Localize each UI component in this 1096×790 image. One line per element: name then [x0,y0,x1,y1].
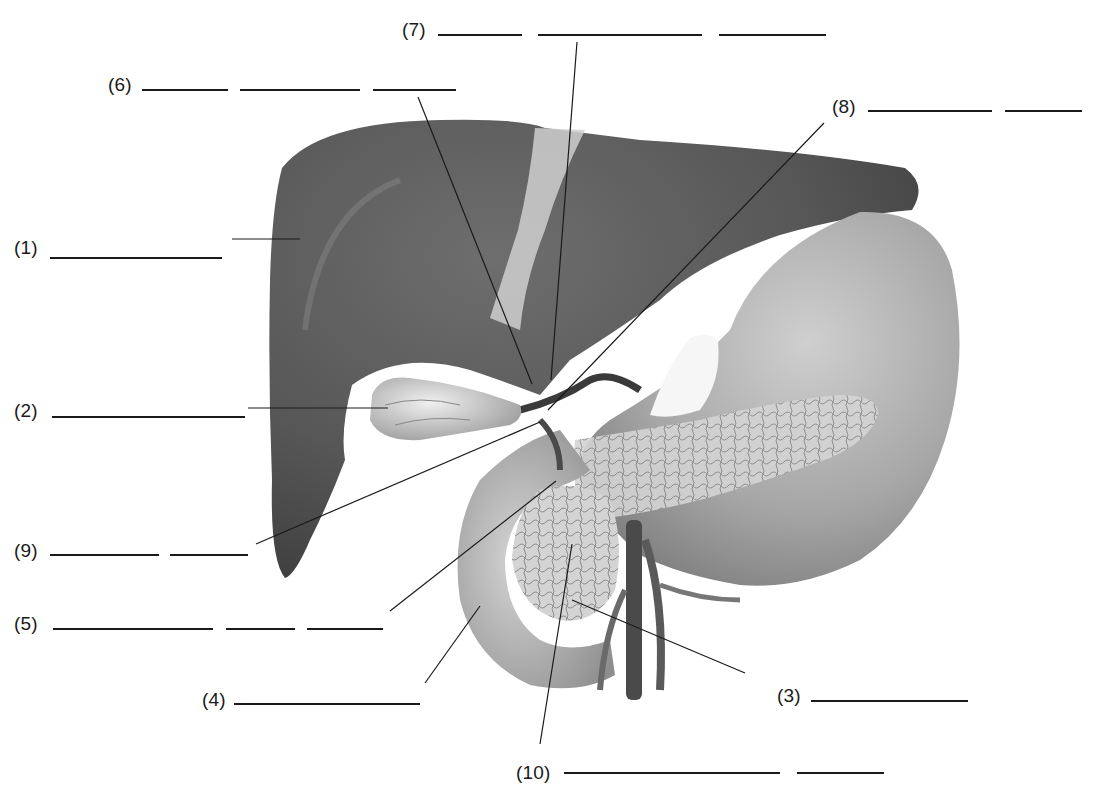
answer-blank-4-1[interactable] [234,703,420,705]
anatomy-illustration [0,0,1096,790]
label-number-8: (8) [832,97,856,116]
answer-blank-8-1[interactable] [868,110,992,112]
label-number-2: (2) [14,401,38,420]
answer-blank-3-1[interactable] [811,700,968,702]
label-number-9: (9) [14,541,38,560]
gallbladder [370,378,521,441]
answer-blank-6-3[interactable] [373,89,456,91]
mesenteric-vessels [626,520,642,700]
label-number-4: (4) [202,690,226,709]
label-number-1: (1) [14,238,38,257]
answer-blank-9-2[interactable] [170,554,248,556]
leader-line-4 [425,606,480,683]
answer-blank-2-1[interactable] [52,416,245,418]
answer-blank-6-1[interactable] [142,89,228,91]
label-number-10: (10) [516,763,551,782]
answer-blank-9-1[interactable] [50,554,159,556]
pancreas-head [512,486,619,621]
label-number-7: (7) [402,20,426,39]
answer-blank-1-1[interactable] [50,257,222,259]
answer-blank-5-3[interactable] [307,628,383,630]
answer-blank-7-3[interactable] [719,34,826,36]
label-number-5: (5) [14,614,38,633]
answer-blank-8-2[interactable] [1005,110,1082,112]
label-number-6: (6) [108,75,132,94]
answer-blank-10-1[interactable] [564,772,780,774]
answer-blank-5-2[interactable] [226,628,295,630]
answer-blank-7-1[interactable] [438,34,522,36]
answer-blank-6-2[interactable] [240,89,360,91]
label-number-3: (3) [777,686,801,705]
answer-blank-5-1[interactable] [53,628,213,630]
answer-blank-10-2[interactable] [797,772,884,774]
answer-blank-7-2[interactable] [538,34,702,36]
